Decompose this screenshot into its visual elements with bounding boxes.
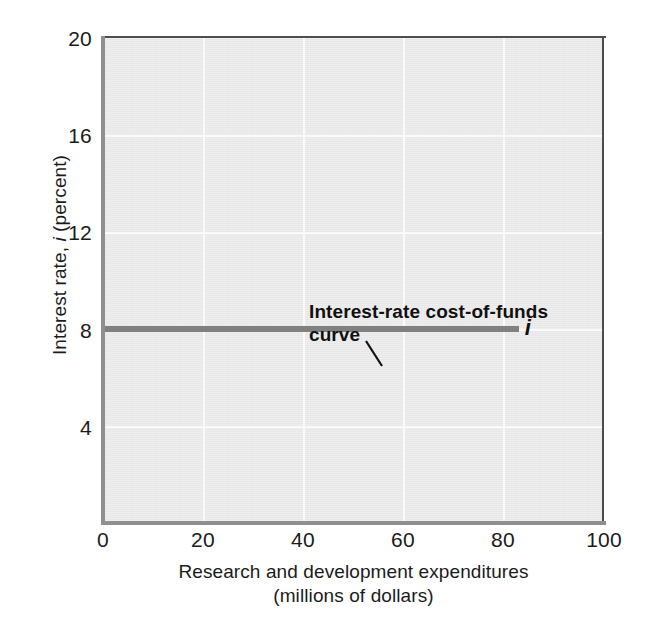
plot-area: Interest-rate cost-of-funds curve xyxy=(103,38,604,523)
curve-annotation-line-2: curve xyxy=(309,323,609,346)
axis-spine-right xyxy=(602,36,604,525)
plot-texture xyxy=(103,38,604,523)
gridline-horizontal-4 xyxy=(103,426,604,428)
gridline-vertical-80 xyxy=(503,38,505,523)
gridline-horizontal-16 xyxy=(103,135,604,137)
y-axis-title-symbol: i xyxy=(49,237,70,241)
gridline-vertical-60 xyxy=(403,38,405,523)
gridline-vertical-20 xyxy=(203,38,205,523)
gridline-horizontal-12 xyxy=(103,232,604,234)
x-tick-label-100: 100 xyxy=(569,529,639,551)
x-axis-title: Research and development expenditures (m… xyxy=(103,560,604,608)
y-axis-title-suffix: (percent) xyxy=(49,155,70,237)
x-axis-title-line-1: Research and development expenditures xyxy=(178,561,528,582)
gridline-vertical-40 xyxy=(303,38,305,523)
x-tick-label-20: 20 xyxy=(168,529,238,551)
axis-spine-bottom xyxy=(101,521,606,525)
curve-annotation-line-1: Interest-rate cost-of-funds xyxy=(309,301,548,322)
curve-symbol-i: i xyxy=(525,317,531,339)
x-tick-label-40: 40 xyxy=(268,529,338,551)
curve-annotation: Interest-rate cost-of-funds curve xyxy=(309,300,609,346)
x-tick-label-60: 60 xyxy=(368,529,438,551)
y-axis-title: Interest rate, i (percent) xyxy=(50,45,70,465)
x-tick-label-0: 0 xyxy=(68,529,138,551)
axis-spine-top xyxy=(101,36,606,38)
chart-figure: Interest-rate cost-of-funds curve i 20 1… xyxy=(0,0,654,634)
axis-spine-left xyxy=(101,36,105,525)
x-axis-title-line-2: (millions of dollars) xyxy=(103,584,604,608)
x-tick-label-80: 80 xyxy=(468,529,538,551)
y-axis-title-prefix: Interest rate, xyxy=(49,242,70,355)
